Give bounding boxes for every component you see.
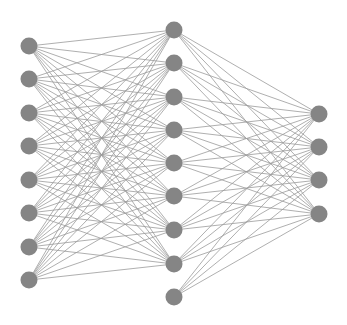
edge (29, 264, 174, 280)
output-node-1 (311, 106, 328, 123)
hidden-node-2 (166, 55, 183, 72)
input-node-2 (21, 71, 38, 88)
hidden-node-5 (166, 155, 183, 172)
edge (174, 63, 319, 147)
output-node-3 (311, 172, 328, 189)
edge (174, 114, 319, 230)
edge (174, 114, 319, 130)
input-node-1 (21, 38, 38, 55)
edge (174, 214, 319, 297)
edge (29, 30, 174, 146)
edge (29, 30, 174, 46)
edge (174, 114, 319, 196)
edge (29, 247, 174, 264)
edge (29, 30, 174, 180)
output-node-4 (311, 206, 328, 223)
edge (174, 180, 319, 196)
hidden-node-3 (166, 89, 183, 106)
hidden-node-6 (166, 188, 183, 205)
input-node-8 (21, 272, 38, 289)
input-node-7 (21, 239, 38, 256)
edge (174, 63, 319, 114)
edge (29, 230, 174, 247)
input-node-5 (21, 172, 38, 189)
input-node-3 (21, 105, 38, 122)
edge (29, 63, 174, 280)
hidden-node-4 (166, 122, 183, 139)
hidden-node-1 (166, 22, 183, 39)
hidden-node-7 (166, 222, 183, 239)
edge (174, 30, 319, 114)
edge (29, 63, 174, 79)
edge (29, 196, 174, 280)
edge (174, 114, 319, 297)
edge (174, 97, 319, 114)
edge (29, 30, 174, 213)
edge (29, 130, 174, 280)
edge (29, 163, 174, 280)
neural-network-diagram (0, 0, 347, 325)
nodes (21, 22, 328, 306)
input-node-4 (21, 138, 38, 155)
edge (174, 147, 319, 297)
hidden-node-9 (166, 289, 183, 306)
input-node-6 (21, 205, 38, 222)
edge (29, 30, 174, 280)
output-node-2 (311, 139, 328, 156)
edge (29, 230, 174, 280)
edge (174, 180, 319, 297)
hidden-node-8 (166, 256, 183, 273)
